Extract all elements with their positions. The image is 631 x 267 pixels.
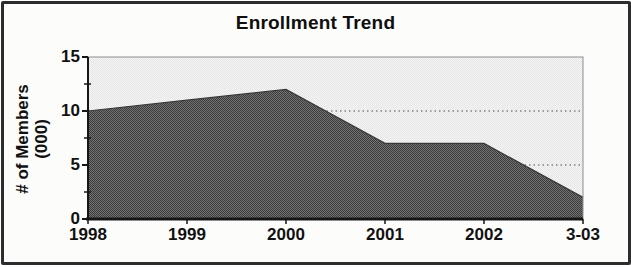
x-tick-label-3-03: 3-03 — [548, 225, 618, 245]
x-tick-label-2002: 2002 — [449, 225, 519, 245]
x-tick-label-1999: 1999 — [152, 225, 222, 245]
y-tick-label-5: 5 — [46, 155, 80, 175]
x-tick-label-1998: 1998 — [53, 225, 123, 245]
y-tick-label-10: 10 — [46, 101, 80, 121]
y-tick-label-15: 15 — [46, 47, 80, 67]
x-tick-label-2000: 2000 — [251, 225, 321, 245]
x-tick-label-2001: 2001 — [350, 225, 420, 245]
